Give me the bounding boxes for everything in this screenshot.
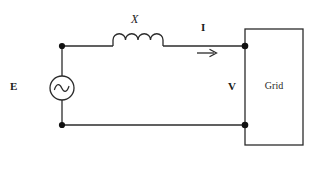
node-top-right-dot xyxy=(242,43,249,50)
grid-block-label: Grid xyxy=(245,81,303,91)
voltage-label: V xyxy=(228,81,236,92)
circuit-schematic xyxy=(0,0,318,183)
source-label: E xyxy=(10,81,17,92)
reactance-label: X xyxy=(131,13,138,25)
node-bottom-right-dot xyxy=(242,122,249,129)
current-label: I xyxy=(201,22,205,33)
current-arrow-icon xyxy=(197,49,217,57)
circuit-diagram-canvas: E X I V Grid xyxy=(0,0,318,183)
inductor-coil xyxy=(113,34,163,46)
node-top-left-dot xyxy=(59,43,65,49)
node-bottom-left-dot xyxy=(59,122,65,128)
